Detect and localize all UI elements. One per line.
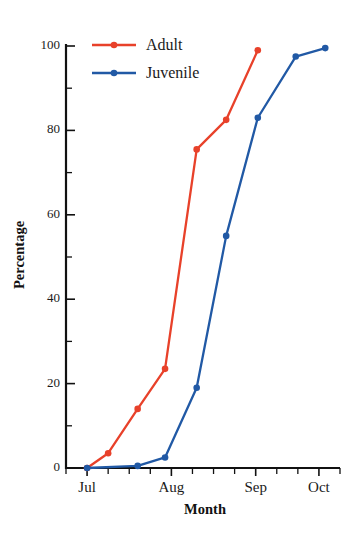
y-tick-label: 100 <box>41 37 61 52</box>
data-point <box>223 117 230 124</box>
data-point <box>84 465 91 472</box>
x-tick-label: Oct <box>308 479 330 495</box>
data-point <box>162 366 169 373</box>
legend-swatch-marker <box>111 42 118 49</box>
x-axis-title: Month <box>184 501 226 517</box>
y-tick-label: 60 <box>47 206 60 221</box>
line-chart: 020406080100 JulAugSepOct AdultJuvenile … <box>0 0 347 537</box>
chart-container: 020406080100 JulAugSepOct AdultJuvenile … <box>0 0 347 537</box>
x-tick-label: Sep <box>244 479 267 495</box>
x-tick-label: Jul <box>78 479 96 495</box>
data-point <box>322 45 329 52</box>
data-point <box>254 114 261 121</box>
data-point <box>223 233 230 240</box>
data-point <box>193 385 200 392</box>
y-axis-title: Percentage <box>11 220 27 289</box>
y-tick-label: 80 <box>47 121 60 136</box>
legend-swatch-marker <box>111 70 118 77</box>
legend-label: Adult <box>146 36 183 53</box>
data-point <box>134 406 141 413</box>
x-tick-label: Aug <box>158 479 184 495</box>
legend-label: Juvenile <box>146 64 199 81</box>
data-point <box>193 146 200 153</box>
data-point <box>254 47 261 54</box>
y-tick-label: 0 <box>54 459 61 474</box>
y-tick-label: 40 <box>47 290 60 305</box>
data-point <box>134 463 141 470</box>
data-point <box>292 53 299 60</box>
y-tick-label: 20 <box>47 375 60 390</box>
data-point <box>105 450 112 457</box>
data-point <box>162 454 169 461</box>
